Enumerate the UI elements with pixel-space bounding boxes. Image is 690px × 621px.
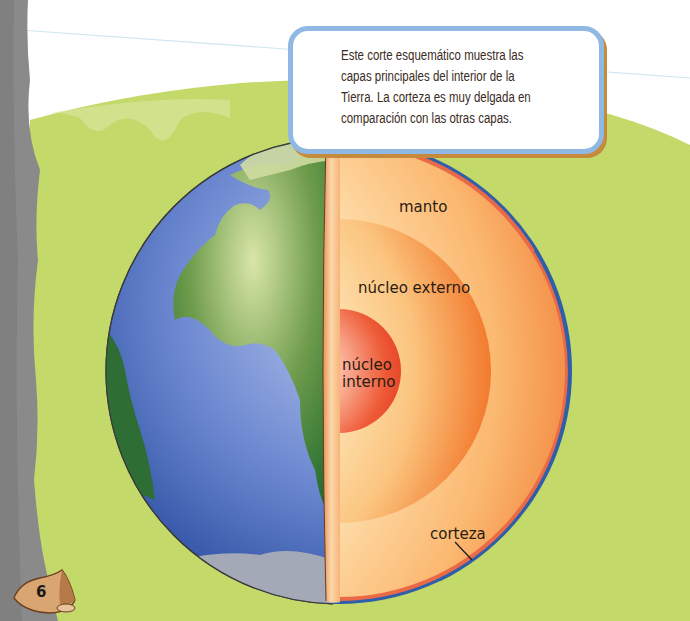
caption-line-4: comparación con las otras capas. — [341, 108, 587, 129]
label-nucleo-externo: núcleo externo — [358, 279, 470, 297]
cut-edge — [323, 139, 340, 603]
label-manto: manto — [399, 198, 447, 216]
label-nucleo-interno-line1: núcleo — [342, 356, 392, 374]
caption-line-2: capas principales del interior de la — [341, 66, 587, 87]
diagram-stage: Este corte esquemático muestra las capas… — [0, 0, 690, 621]
caption-box: Este corte esquemático muestra las capas… — [288, 26, 604, 154]
page-number: 6 — [36, 583, 46, 601]
caption-text: Este corte esquemático muestra las capas… — [341, 45, 587, 129]
label-corteza: corteza — [430, 525, 486, 543]
caption-line-3: Tierra. La corteza es muy delgada en — [341, 87, 587, 108]
label-nucleo-interno-line2: interno — [342, 373, 395, 391]
caption-line-1: Este corte esquemático muestra las — [341, 45, 587, 66]
